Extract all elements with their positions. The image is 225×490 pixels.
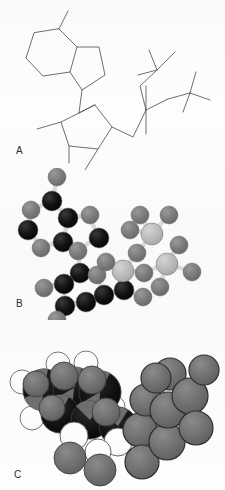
- atom-sphere-light: [141, 223, 163, 245]
- atom-sphere-medium: [22, 201, 40, 219]
- panel-label-a: A: [16, 146, 23, 156]
- panel-c-space-filling-model: [0, 330, 225, 490]
- atom-sphere-light: [156, 253, 178, 275]
- chain-to-tail: [112, 110, 146, 137]
- q2-methyl-up: [190, 72, 196, 93]
- atom-sphere-medium: [81, 206, 99, 224]
- figure-root: A: [0, 0, 225, 490]
- space-filling-drawing: [0, 330, 225, 490]
- panel-label-c: C: [14, 470, 21, 480]
- atom-sphere-medium: [135, 264, 153, 282]
- atom-sphere-medium: [128, 244, 146, 262]
- atom-sphere-dark: [76, 292, 96, 312]
- chain-bond-to-q2: [168, 93, 190, 99]
- atom-sphere-medium: [121, 221, 139, 239]
- atom-sphere-dark: [114, 280, 134, 300]
- skeletal-structure-drawing: [0, 0, 225, 170]
- tbutyl-methyl-a: [149, 50, 157, 70]
- sphere-group: [10, 351, 219, 486]
- atom-sphere-medium: [134, 288, 152, 306]
- ball-and-stick-drawing: [0, 168, 225, 320]
- atom-sphere-medium: [97, 253, 115, 271]
- atom-group: [18, 168, 201, 320]
- panel-a-skeletal-structure: [0, 0, 225, 170]
- second-six-ring: [61, 105, 112, 149]
- sphere-gray: [50, 362, 78, 390]
- sphere-gray: [84, 454, 116, 486]
- cyclohexane-ring: [26, 29, 77, 76]
- panel-b-ball-and-stick: [0, 168, 225, 320]
- atom-sphere-medium: [32, 239, 50, 257]
- sphere-gray: [189, 355, 219, 385]
- methyl-bond-top: [59, 11, 68, 29]
- methyl-bond-bottom: [85, 149, 98, 170]
- sphere-gray: [141, 363, 171, 393]
- sphere-gray: [54, 442, 86, 474]
- atom-sphere-light: [112, 260, 134, 282]
- methyl-bond-left: [37, 122, 61, 129]
- sphere-gray: [39, 395, 65, 421]
- tbutyl-methyl-b: [157, 52, 175, 70]
- atom-sphere-medium: [170, 236, 188, 254]
- atom-sphere-medium: [183, 263, 201, 281]
- atom-sphere-dark: [94, 285, 114, 305]
- q2-methyl-down: [183, 93, 190, 112]
- atom-sphere-medium: [131, 206, 149, 224]
- atom-sphere-medium: [35, 279, 53, 297]
- atom-sphere-medium: [160, 206, 178, 224]
- q2-methyl-right: [190, 93, 210, 100]
- atom-sphere-medium: [69, 242, 87, 260]
- atom-sphere-dark: [54, 274, 74, 294]
- ring-to-ring-bond: [79, 90, 82, 113]
- atom-sphere-dark: [42, 191, 62, 211]
- chain-up-to-tbutyl: [140, 70, 157, 110]
- panel-label-b: B: [16, 299, 23, 309]
- atom-sphere-dark: [18, 220, 38, 240]
- sphere-gray: [23, 371, 49, 397]
- atom-sphere-dark: [89, 228, 109, 248]
- atom-sphere-medium: [151, 278, 169, 296]
- sphere-gray: [78, 366, 106, 394]
- atom-sphere-medium: [48, 168, 66, 186]
- chain-bond-right: [146, 99, 168, 110]
- sphere-gray: [179, 411, 213, 445]
- ring-crossbond: [79, 105, 95, 113]
- sphere-gray: [92, 398, 120, 426]
- atom-sphere-dark: [58, 208, 78, 228]
